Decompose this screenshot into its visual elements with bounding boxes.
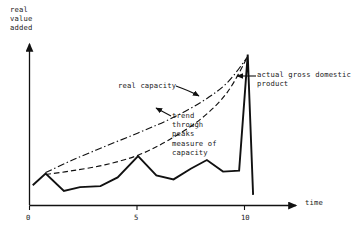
annotation-trend-line-2: through [172,120,203,129]
x-axis-title: time [305,198,323,207]
y-axis-title: real value added [10,5,32,33]
x-tick-label-0: 0 [26,213,30,222]
series-trend-through-peaks-line [46,57,248,175]
series-real-capacity-line [46,57,248,173]
series-actual-gdp-line [33,55,253,195]
annotation-actual-gdp-line-2: product [257,79,288,88]
real-capacity-leader-arrow [176,86,199,96]
annotation-actual-gross-domestic-product: actual gross domestic product [257,70,351,88]
annotation-trend-line-5: capacity [172,148,208,157]
annotation-trend-line-4: measure of [172,139,217,148]
x-tick-label-5: 5 [134,213,138,222]
annotation-trend-line-1: trend [172,111,194,120]
annotation-real-capacity: real capacity [118,81,176,90]
annotation-trend-line-3: peaks [172,129,194,138]
economic-capacity-line-chart: real value added time real capacity actu… [0,0,361,242]
annotation-trend-through-peaks: trend through peaks measure of capacity [172,111,217,157]
trend-peaks-leader-arrow [156,108,171,116]
x-tick-label-10: 10 [241,213,250,222]
annotation-actual-gdp-line-1: actual gross domestic [257,70,351,79]
x-axis [30,206,297,211]
